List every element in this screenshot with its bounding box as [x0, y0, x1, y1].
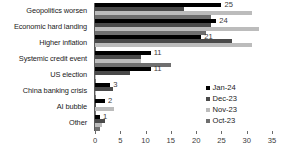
- x-axis-tick: [247, 131, 248, 134]
- bar: [95, 7, 184, 10]
- bar: [95, 119, 105, 122]
- bar: [95, 39, 232, 42]
- x-axis-tick-label: 15: [167, 137, 175, 145]
- category-label: AI bubble: [0, 99, 92, 115]
- legend-item[interactable]: Oct-23: [206, 117, 266, 125]
- x-axis-tick: [146, 131, 147, 134]
- bar-row: [95, 59, 272, 62]
- legend-swatch-icon: [206, 119, 210, 123]
- legend-item[interactable]: Jan-24: [206, 84, 266, 92]
- legend-label: Dec-23: [213, 95, 237, 103]
- x-axis-tick-label: 10: [141, 137, 149, 145]
- bar: [95, 67, 151, 70]
- x-axis-tick-label: 25: [217, 137, 225, 145]
- legend-label: Jan-24: [213, 84, 236, 92]
- bar-group: 11: [95, 67, 272, 83]
- bar: [95, 91, 96, 94]
- bar: [95, 71, 130, 74]
- bar: [95, 99, 105, 102]
- x-axis-tick: [272, 131, 273, 134]
- x-axis-tick-label: 0: [93, 137, 97, 145]
- legend-swatch-icon: [206, 108, 210, 112]
- bar: [95, 27, 259, 30]
- bar: [95, 107, 114, 110]
- bar-group: 11: [95, 51, 272, 67]
- bar-row: [95, 23, 272, 26]
- bar-row: 11: [95, 67, 272, 70]
- bar-row: [95, 7, 272, 10]
- x-axis-tick-labels: 05101520253035: [95, 137, 272, 151]
- bar: [95, 83, 110, 86]
- legend-swatch-icon: [206, 97, 210, 101]
- bar-row: 25: [95, 3, 272, 6]
- bar-group: 24: [95, 19, 272, 35]
- category-label: Economic hard landing: [0, 19, 92, 35]
- x-axis-tick: [221, 131, 222, 134]
- bar: [95, 75, 96, 78]
- bar: [95, 59, 141, 62]
- bar-row: [95, 27, 272, 30]
- bar-row: [95, 55, 272, 58]
- category-label: Geopolitics worsen: [0, 3, 92, 19]
- category-label: Systemic credit event: [0, 51, 92, 67]
- bar: [95, 23, 211, 26]
- x-axis-tick: [120, 131, 121, 134]
- bar-row: 21: [95, 35, 272, 38]
- legend-label: Nov-23: [213, 106, 237, 114]
- bar-row: [95, 71, 272, 74]
- category-axis-labels: Geopolitics worsen Economic hard landing…: [0, 3, 92, 131]
- bar: [95, 55, 141, 58]
- bar: [95, 87, 113, 90]
- category-label: Other: [0, 115, 92, 131]
- bar: [95, 19, 216, 22]
- category-label: US election: [0, 67, 92, 83]
- chart-legend: Jan-24Dec-23Nov-23Oct-23: [206, 84, 266, 125]
- x-axis-tick-label: 20: [192, 137, 200, 145]
- legend-label: Oct-23: [213, 117, 236, 125]
- category-label: China banking crisis: [0, 83, 92, 99]
- bar: [95, 103, 96, 106]
- bar: [95, 3, 221, 6]
- x-axis-tick: [95, 131, 96, 134]
- x-axis-tick-label: 35: [268, 137, 276, 145]
- bar: [95, 51, 151, 54]
- legend-item[interactable]: Nov-23: [206, 106, 266, 114]
- bar-row: [95, 39, 272, 42]
- x-axis-tick-label: 30: [242, 137, 250, 145]
- bar-group: 21: [95, 35, 272, 51]
- bar: [95, 35, 201, 38]
- x-axis-tick: [196, 131, 197, 134]
- bar-row: 11: [95, 51, 272, 54]
- x-axis: [95, 131, 272, 133]
- legend-item[interactable]: Dec-23: [206, 95, 266, 103]
- bar-row: [95, 75, 272, 78]
- bar-group: 25: [95, 3, 272, 19]
- legend-swatch-icon: [206, 86, 210, 90]
- bar-row: [95, 11, 272, 14]
- x-axis-tick-label: 5: [118, 137, 122, 145]
- bar-row: 24: [95, 19, 272, 22]
- bar: [95, 11, 252, 14]
- bar-row: [95, 43, 272, 46]
- bar: [95, 43, 252, 46]
- category-label: Higher inflation: [0, 35, 92, 51]
- bar-chart: Geopolitics worsen Economic hard landing…: [0, 0, 287, 161]
- bar: [95, 123, 102, 126]
- x-axis-tick: [171, 131, 172, 134]
